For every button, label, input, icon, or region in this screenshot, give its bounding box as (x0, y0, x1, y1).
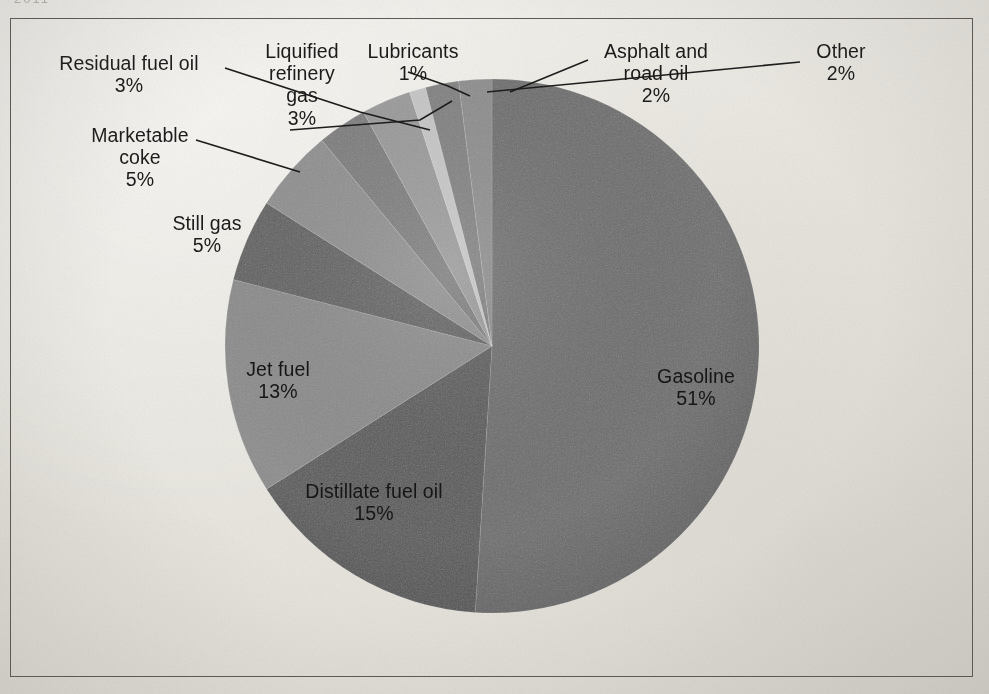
label-liquified-refinery-gas: Liquified refinery gas 3% (246, 40, 358, 129)
label-still-gas: Still gas 5% (152, 212, 262, 256)
label-other: Other 2% (800, 40, 882, 84)
label-jet-fuel: Jet fuel 13% (226, 358, 330, 402)
pie-shading (225, 79, 759, 613)
label-asphalt-and-road-oil: Asphalt and road oil 2% (588, 40, 724, 107)
label-gasoline: Gasoline 51% (638, 365, 754, 409)
label-lubricants: Lubricants 1% (352, 40, 474, 84)
pie-chart (0, 0, 989, 694)
label-marketable-coke: Marketable coke 5% (62, 124, 218, 191)
label-residual-fuel-oil: Residual fuel oil 3% (33, 52, 225, 96)
label-distillate-fuel-oil: Distillate fuel oil 15% (281, 480, 467, 524)
